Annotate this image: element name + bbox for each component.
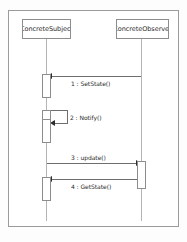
message-line-1	[47, 76, 141, 77]
message-line-2-bottom	[53, 123, 68, 124]
lifeline-head-concrete-subject[interactable]: ConcreteSubject	[22, 19, 71, 39]
diagram-frame: ConcreteSubject ConcreteObserver 1 : Set…	[8, 10, 179, 227]
lifeline-label-concrete-observer: ConcreteObserver	[116, 26, 169, 33]
message-label-1: 1 : SetState()	[71, 81, 110, 87]
message-line-4	[47, 179, 137, 180]
message-label-4: 4 : GetState()	[71, 184, 111, 190]
message-label-3: 3 : update()	[71, 155, 106, 161]
message-line-3	[47, 163, 140, 164]
lifeline-stem-concrete-observer	[141, 39, 142, 221]
activation-subject-getstate[interactable]	[42, 177, 51, 201]
lifeline-head-concrete-observer[interactable]: ConcreteObserver	[116, 19, 169, 39]
message-line-2-top	[51, 110, 68, 111]
activation-subject-notify-nested[interactable]	[42, 119, 51, 143]
sequence-diagram-canvas: ConcreteSubject ConcreteObserver 1 : Set…	[0, 0, 187, 242]
activation-observer-update[interactable]	[137, 161, 146, 189]
lifeline-label-concrete-subject: ConcreteSubject	[22, 26, 71, 33]
message-label-2: 2 : Notify()	[70, 115, 101, 121]
activation-subject-setstate[interactable]	[42, 74, 51, 98]
message-line-2-side	[67, 110, 68, 123]
